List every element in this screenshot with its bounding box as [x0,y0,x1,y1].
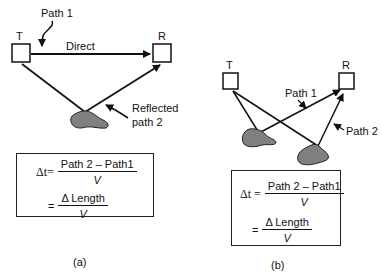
path2-label-b: Path 2 [346,125,378,137]
eq-b2-num: Δ Length [262,216,311,230]
reflector-b1 [242,129,276,147]
equation-a-2: = Δ LengthV [48,192,108,220]
receiver-label-b: R [342,59,350,71]
equation-b-1: Δt = Path 2 – Path1V [240,180,344,208]
equation-b-2: = Δ LengthV [252,216,312,244]
eq-a1-num: Path 2 – Path1 [58,158,137,172]
reflected-label-line1: Reflected [132,102,178,114]
caption-b: (b) [271,259,284,271]
equation-a-1: Δt= Path 2 – Path1V [36,158,137,186]
receiver-box-b [339,73,354,89]
eq-a2-den: V [79,206,86,220]
caption-a: (a) [73,256,86,268]
path1-label-b: Path 1 [285,87,317,99]
eq-b1-den: V [301,194,308,208]
eq-b1-lhs: Δt = [240,187,261,202]
receiver-box-a [153,44,171,62]
transmitter-label-a: T [16,30,23,42]
path1-label-a: Path 1 [41,7,73,19]
eq-b1-num: Path 2 – Path1 [265,180,344,194]
reflector-b2 [298,144,329,164]
transmitter-box-a [12,44,30,62]
eq-a1-den: V [94,172,101,186]
eq-a1-lhs: Δt= [36,165,54,180]
transmitter-box-b [223,73,238,89]
eq-a2-lhs: = [48,200,54,212]
transmitter-label-b: T [226,59,233,71]
eq-b2-den: V [283,230,290,244]
receiver-label-a: R [158,30,166,42]
direct-label: Direct [66,40,95,52]
eq-a2-num: Δ Length [58,192,107,206]
reflected-label-line2: path 2 [132,116,163,128]
eq-b2-lhs: = [252,224,258,236]
reflector-a [71,111,108,128]
